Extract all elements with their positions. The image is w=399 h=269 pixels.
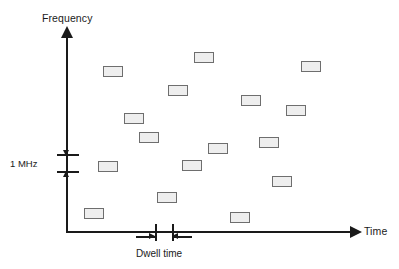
dwell-time-annotation: Dwell time <box>118 222 228 266</box>
dwell-time-tick-left <box>155 224 157 241</box>
hop-marker <box>84 208 104 219</box>
hop-marker <box>168 85 188 96</box>
arrow-up-icon <box>63 171 69 177</box>
hop-marker <box>241 95 261 106</box>
hop-marker <box>124 113 144 124</box>
arrow-right-icon <box>149 233 155 239</box>
frequency-step-label: 1 MHz <box>10 158 37 169</box>
hop-marker <box>182 160 202 171</box>
hop-marker <box>139 132 159 143</box>
dwell-time-label: Dwell time <box>136 248 182 259</box>
hop-marker <box>157 192 177 203</box>
y-axis-line <box>66 36 68 233</box>
frequency-step-annotation: 1 MHz <box>10 148 90 184</box>
arrow-down-icon <box>63 150 69 156</box>
x-axis-arrow-icon <box>350 226 362 238</box>
hop-marker <box>98 161 118 172</box>
hop-marker <box>301 61 321 72</box>
hop-marker <box>194 52 214 63</box>
x-axis-label: Time <box>364 225 387 237</box>
arrow-left-icon <box>172 233 178 239</box>
hop-marker <box>286 105 306 116</box>
y-axis-label: Frequency <box>42 12 93 24</box>
hop-marker <box>103 66 123 77</box>
hop-marker <box>272 176 292 187</box>
y-axis-arrow-icon <box>61 26 73 38</box>
hop-marker <box>230 212 250 223</box>
hop-marker <box>208 143 228 154</box>
frequency-hopping-chart: Frequency Time 1 MHz Dwell time <box>0 0 399 269</box>
hop-marker <box>259 137 279 148</box>
